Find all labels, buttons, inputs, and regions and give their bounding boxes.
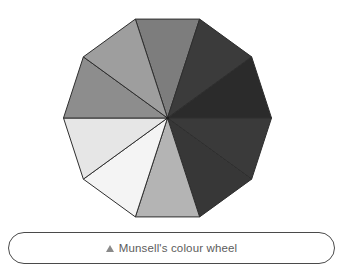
triangle-up-icon — [106, 245, 114, 252]
figure-panel — [0, 0, 345, 226]
caption-label: Munsell's colour wheel — [119, 241, 238, 255]
wheel-center-hub — [166, 116, 169, 119]
munsell-colour-wheel-graphic — [0, 0, 345, 226]
caption-bar: Munsell's colour wheel — [8, 232, 335, 264]
